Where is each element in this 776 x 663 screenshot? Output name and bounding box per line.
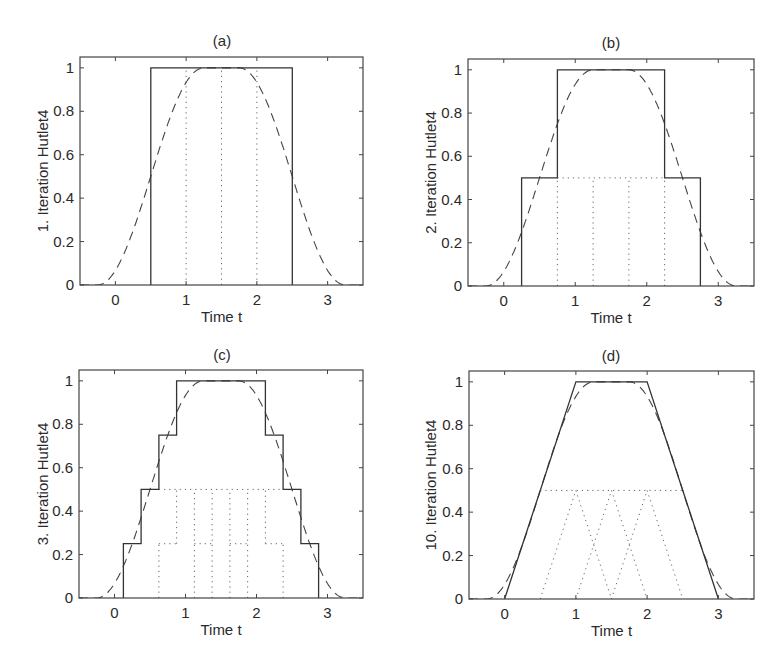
panel-c: 012300.20.40.60.81(c)Time t3. Iteration … xyxy=(34,346,363,638)
y-tick-label: 0 xyxy=(65,589,73,606)
iterate-curve-solid xyxy=(522,70,701,286)
y-axis-label: 3. Iteration Hutlet4 xyxy=(34,423,51,546)
iterate-curve-solid xyxy=(151,68,292,285)
x-tick-label: 3 xyxy=(714,605,722,622)
x-tick-label: 1 xyxy=(572,605,580,622)
x-tick-label: 3 xyxy=(323,291,331,308)
x-tick-label: 0 xyxy=(500,605,508,622)
y-tick-label: 0.2 xyxy=(442,547,463,564)
y-tick-label: 0.4 xyxy=(442,503,463,520)
x-axis-label: Time t xyxy=(591,622,633,639)
y-tick-label: 0.6 xyxy=(52,459,73,476)
y-tick-label: 0.4 xyxy=(53,189,74,206)
panel-a: 012300.20.40.60.81(a)Time t1. Iteration … xyxy=(34,32,363,325)
target-curve-dashed xyxy=(468,70,754,286)
x-tick-label: 3 xyxy=(714,292,722,309)
x-axis-label: Time t xyxy=(201,308,243,325)
x-tick-label: 2 xyxy=(643,292,651,309)
y-tick-label: 0.8 xyxy=(442,416,463,433)
panel-b: 012300.20.40.60.81(b)Time t2. Iteration … xyxy=(422,34,754,326)
y-tick-label: 0.2 xyxy=(53,233,74,250)
y-tick-label: 0 xyxy=(66,276,74,293)
plot-area xyxy=(79,381,363,598)
axes-box xyxy=(468,59,754,286)
x-tick-label: 2 xyxy=(643,605,651,622)
y-axis-label: 2. Iteration Hutlet4 xyxy=(422,111,439,234)
y-tick-label: 0.4 xyxy=(52,502,73,519)
x-tick-label: 1 xyxy=(571,292,579,309)
axes-box xyxy=(79,370,363,598)
axes-box xyxy=(80,57,363,285)
y-tick-label: 0.6 xyxy=(53,146,74,163)
x-axis-label: Time t xyxy=(590,309,632,326)
panel-title: (b) xyxy=(602,34,620,51)
target-curve-dashed xyxy=(80,68,363,285)
plot-area xyxy=(469,382,754,599)
target-curve-dashed xyxy=(79,381,363,598)
panel-title: (a) xyxy=(213,32,231,49)
y-tick-label: 0.8 xyxy=(53,102,74,119)
y-tick-label: 0.8 xyxy=(52,415,73,432)
y-tick-label: 0.2 xyxy=(441,234,462,251)
x-tick-label: 3 xyxy=(323,604,331,621)
component-dotted xyxy=(612,490,648,599)
component-dotted xyxy=(612,490,648,599)
plot-area xyxy=(80,68,363,285)
y-tick-label: 0.6 xyxy=(441,147,462,164)
y-tick-label: 1 xyxy=(455,373,463,390)
y-tick-label: 1 xyxy=(66,59,74,76)
y-tick-label: 0.8 xyxy=(441,104,462,121)
component-dotted xyxy=(647,490,683,599)
component-dotted xyxy=(576,490,612,599)
x-tick-label: 1 xyxy=(181,604,189,621)
component-dotted xyxy=(576,490,612,599)
x-tick-label: 2 xyxy=(253,291,261,308)
x-axis-label: Time t xyxy=(200,621,242,638)
x-tick-label: 2 xyxy=(252,604,260,621)
y-tick-label: 0.2 xyxy=(52,546,73,563)
x-tick-label: 0 xyxy=(110,604,118,621)
y-tick-label: 0 xyxy=(455,590,463,607)
plot-area xyxy=(468,70,754,286)
y-tick-label: 0.4 xyxy=(441,191,462,208)
panel-title: (d) xyxy=(602,347,620,364)
iterate-curve-solid xyxy=(123,381,318,598)
y-axis-label: 1. Iteration Hutlet4 xyxy=(34,110,51,233)
y-tick-label: 0 xyxy=(454,277,462,294)
y-tick-label: 1 xyxy=(454,61,462,78)
x-tick-label: 1 xyxy=(182,291,190,308)
component-dotted xyxy=(540,490,576,599)
panel-d: 012300.20.40.60.81(d)Time t10. Iteration… xyxy=(422,347,754,639)
x-tick-label: 0 xyxy=(500,292,508,309)
panel-title: (c) xyxy=(213,346,231,363)
x-tick-label: 0 xyxy=(111,291,119,308)
y-axis-label: 10. Iteration Hutlet4 xyxy=(422,420,439,551)
y-tick-label: 1 xyxy=(65,372,73,389)
axes-box xyxy=(469,371,754,599)
figure: 012300.20.40.60.81(a)Time t1. Iteration … xyxy=(0,0,776,663)
y-tick-label: 0.6 xyxy=(442,460,463,477)
